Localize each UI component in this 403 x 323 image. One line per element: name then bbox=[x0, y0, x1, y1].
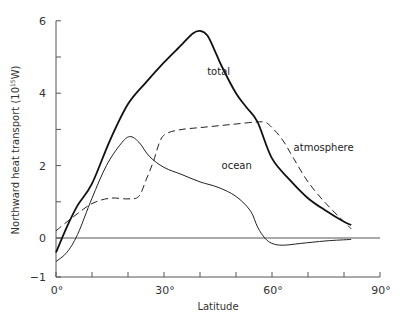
series-line-atmosphere bbox=[56, 122, 351, 231]
y-axis-title: Northward heat transport (1015W) bbox=[9, 65, 21, 234]
y-tick-label: 0 bbox=[39, 232, 46, 245]
series-line-ocean bbox=[56, 137, 351, 262]
x-tick-label: 60° bbox=[263, 284, 283, 297]
heat-transport-chart: −10246 0°30°60°90° totalatmosphereocean … bbox=[0, 0, 403, 323]
y-tick-label: 2 bbox=[39, 160, 46, 173]
series-label-total: total bbox=[207, 66, 230, 77]
y-axis-title-unit: W) bbox=[10, 65, 21, 79]
y-tick-label: 4 bbox=[39, 87, 46, 100]
x-tick-label: 90° bbox=[371, 284, 391, 297]
x-tick-label: 0° bbox=[51, 284, 64, 297]
y-axis-title-base: Northward heat transport (10 bbox=[10, 87, 21, 234]
x-axis-title: Latitude bbox=[197, 301, 238, 312]
y-axis-title-exponent: 15 bbox=[9, 79, 16, 87]
y-tick-label: 6 bbox=[39, 15, 46, 28]
x-tick-label: 30° bbox=[155, 284, 175, 297]
series-label-atmosphere: atmosphere bbox=[294, 142, 354, 153]
y-tick-label: −1 bbox=[30, 271, 46, 284]
series-label-ocean: ocean bbox=[222, 160, 252, 171]
x-axis: 0°30°60°90° bbox=[51, 272, 391, 297]
y-axis: −10246 bbox=[30, 15, 61, 284]
